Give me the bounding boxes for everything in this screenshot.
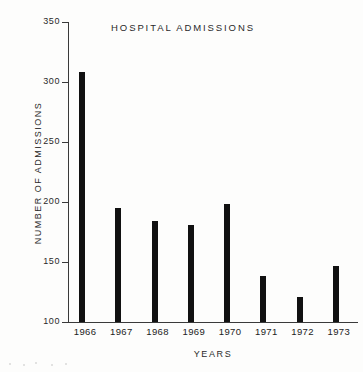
bar	[260, 276, 266, 322]
y-tick-label: 100	[43, 316, 60, 326]
y-tick-label: 200	[43, 196, 60, 206]
bar	[188, 225, 194, 322]
x-tick-label: 1966	[68, 326, 102, 337]
x-tick-label: 1972	[286, 326, 320, 337]
bar	[152, 221, 158, 322]
bar	[79, 72, 85, 322]
x-tick-label: 1969	[177, 326, 211, 337]
bar	[224, 204, 230, 322]
y-tick-label: 350	[43, 16, 60, 26]
x-axis-line	[68, 322, 358, 323]
y-axis-title: NUMBER OF ADMISSIONS	[33, 73, 43, 273]
y-tick: 300	[62, 82, 68, 83]
y-tick-label: 250	[43, 136, 60, 146]
plot-area: 100150200250300350 196619671968196919701…	[68, 22, 358, 322]
x-tick-label: 1970	[213, 326, 247, 337]
x-tick-label: 1971	[249, 326, 283, 337]
bar	[297, 297, 303, 322]
x-axis-title: YEARS	[68, 349, 358, 359]
y-tick-label: 300	[43, 76, 60, 86]
y-tick: 200	[62, 202, 68, 203]
x-tick-label: 1967	[104, 326, 138, 337]
y-tick-label: 150	[43, 256, 60, 266]
y-axis-line	[68, 22, 69, 322]
y-tick: 350	[62, 22, 68, 23]
y-tick: 250	[62, 142, 68, 143]
bar	[333, 266, 339, 322]
x-tick-label: 1973	[322, 326, 356, 337]
y-tick: 150	[62, 262, 68, 263]
chart-figure: HOSPITAL ADMISSIONS NUMBER OF ADMISSIONS…	[0, 0, 363, 372]
x-tick-label: 1968	[141, 326, 175, 337]
y-tick: 100	[62, 322, 68, 323]
bar	[115, 208, 121, 322]
scan-artifact	[6, 360, 76, 368]
